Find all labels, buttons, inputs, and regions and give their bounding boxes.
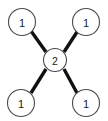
node-top-left[interactable]: 1 — [9, 9, 36, 36]
graph-canvas: 1 1 1 1 2 — [0, 0, 108, 121]
edge-center-top-right — [64, 32, 77, 52]
node-label-bottom-left: 1 — [18, 98, 24, 110]
edge-center-bottom-right — [64, 69, 77, 93]
node-top-right[interactable]: 1 — [73, 9, 100, 36]
node-layer: 1 1 1 1 2 — [8, 9, 100, 117]
node-label-top-left: 1 — [19, 17, 25, 29]
edge-center-top-left — [31, 31, 46, 52]
edge-center-bottom-left — [31, 69, 46, 93]
node-bottom-right[interactable]: 1 — [73, 90, 100, 117]
node-label-top-right: 1 — [83, 17, 89, 29]
node-bottom-left[interactable]: 1 — [8, 90, 35, 117]
node-center[interactable]: 2 — [44, 49, 67, 72]
graph-diagram: 1 1 1 1 2 — [0, 0, 108, 121]
node-label-bottom-right: 1 — [83, 98, 89, 110]
node-label-center: 2 — [52, 55, 58, 67]
